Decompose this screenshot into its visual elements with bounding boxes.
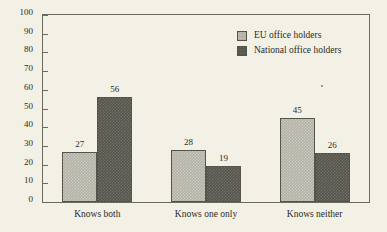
y-axis: 0102030405060708090100 (0, 0, 42, 232)
y-axis-tick-mark (43, 109, 48, 110)
legend-item: National office holders (237, 44, 341, 57)
legend-swatch-eu-office-holders (237, 31, 247, 41)
y-axis-tick-label: 90 (24, 27, 33, 36)
y-axis-tick-mark (43, 90, 48, 91)
bar-value-label: 26 (312, 141, 352, 150)
bar (62, 152, 97, 202)
bar (171, 150, 206, 202)
y-axis-tick-mark (43, 34, 48, 35)
bar (280, 118, 315, 202)
bar (97, 97, 132, 202)
legend-item: EU office holders (237, 29, 341, 42)
y-axis-tick-mark (43, 127, 48, 128)
bar-value-label: 27 (60, 140, 100, 149)
y-axis-tick-mark (43, 71, 48, 72)
bar-value-label: 19 (204, 154, 244, 163)
y-axis-tick-mark (43, 165, 48, 166)
y-axis-tick-label: 0 (29, 195, 34, 204)
y-axis-tick-mark (43, 15, 48, 16)
chart-legend: EU office holders National office holder… (237, 29, 341, 59)
x-axis-category-label: Knows neither (255, 210, 375, 220)
bar-value-label: 56 (95, 85, 135, 94)
y-axis-tick-label: 40 (24, 120, 33, 129)
y-axis-tick-label: 20 (24, 158, 33, 167)
bar-value-label: 28 (169, 138, 209, 147)
bar (315, 153, 350, 202)
x-axis-category-label: Knows both (37, 210, 157, 220)
y-axis-tick-label: 30 (24, 139, 33, 148)
scan-artifact-speck (321, 85, 323, 87)
y-axis-tick-mark (43, 52, 48, 53)
bar (206, 166, 241, 202)
y-axis-tick-mark (43, 183, 48, 184)
bar-value-label: 45 (277, 106, 317, 115)
legend-label-eu-office-holders: EU office holders (254, 31, 321, 41)
chart-page: 0102030405060708090100 275628194526 Know… (0, 0, 387, 232)
y-axis-tick-label: 60 (24, 83, 33, 92)
y-axis-tick-label: 100 (20, 8, 34, 17)
y-axis-tick-mark (43, 146, 48, 147)
x-axis-category-label: Knows one only (146, 210, 266, 220)
legend-label-national-office-holders: National office holders (254, 46, 341, 56)
y-axis-tick-label: 10 (24, 176, 33, 185)
y-axis-tick-label: 50 (24, 102, 33, 111)
y-axis-tick-label: 70 (24, 64, 33, 73)
legend-swatch-national-office-holders (237, 46, 247, 56)
y-axis-tick-label: 80 (24, 45, 33, 54)
